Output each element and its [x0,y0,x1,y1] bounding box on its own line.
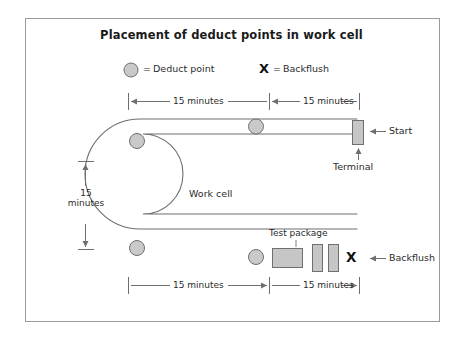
backflush-callout-arrow [370,256,376,262]
bottom-left-deduct-point [130,241,145,256]
work-cell-label: Work cell [189,189,232,199]
left-dim-label: 15 minutes [60,188,112,209]
top-dim-label-1: 15 minutes [173,97,224,107]
top-dim-label-2: 15 minutes [303,97,354,107]
left-dim-label-line1: 15 [60,188,112,198]
terminal-callout-arrow [356,148,362,154]
figure-container: Placement of deduct points in work cell … [0,0,463,340]
test-package-label: Test package [269,229,328,239]
test-package-box [273,249,303,268]
backflush-x-mark: X [346,250,356,265]
work-cell-outer-boundary [85,119,357,229]
top-left-deduct-point [130,134,145,149]
top-dim-arrow-left [131,99,137,105]
terminal-label: Terminal [0,162,463,172]
top-middle-deduct-point [249,119,264,134]
terminal-box [353,121,364,145]
legend-deduct-point-icon [124,63,138,77]
left-dim-label-line2: minutes [60,198,112,208]
left-dim-arrow-down [83,241,89,247]
bottom-dim-label-1: 15 minutes [173,281,224,291]
legend-backflush-icon: X [259,62,269,76]
start-label: Start [389,126,412,136]
backflush-label: Backflush [389,253,435,263]
bottom-middle-deduct-point [249,250,264,265]
legend-deduct-point-equals: = [143,64,151,74]
legend-deduct-point-label: Deduct point [153,64,214,74]
legend-backflush-label: Backflush [283,64,329,74]
top-dim-arrow-middle [272,99,278,105]
legend-backflush-equals: = [273,64,281,74]
bottom-dim-label-2: 15 minutes [303,281,354,291]
work-cell-inner-boundary [143,134,357,214]
station-bar-1 [313,245,323,272]
start-callout-arrow [370,129,376,135]
station-bar-2 [329,245,339,272]
bottom-dim-arrow-1 [261,283,267,289]
figure-title: Placement of deduct points in work cell [0,29,463,42]
